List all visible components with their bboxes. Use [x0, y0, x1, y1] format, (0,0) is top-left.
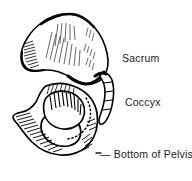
- label-sacrum: Sacrum: [122, 52, 159, 64]
- label-bottom-of-pelvis: — Bottom of Pelvis: [100, 148, 192, 160]
- label-coccyx: Coccyx: [125, 96, 161, 108]
- pelvis-diagram-figure: Sacrum Coccyx — Bottom of Pelvis: [0, 0, 192, 181]
